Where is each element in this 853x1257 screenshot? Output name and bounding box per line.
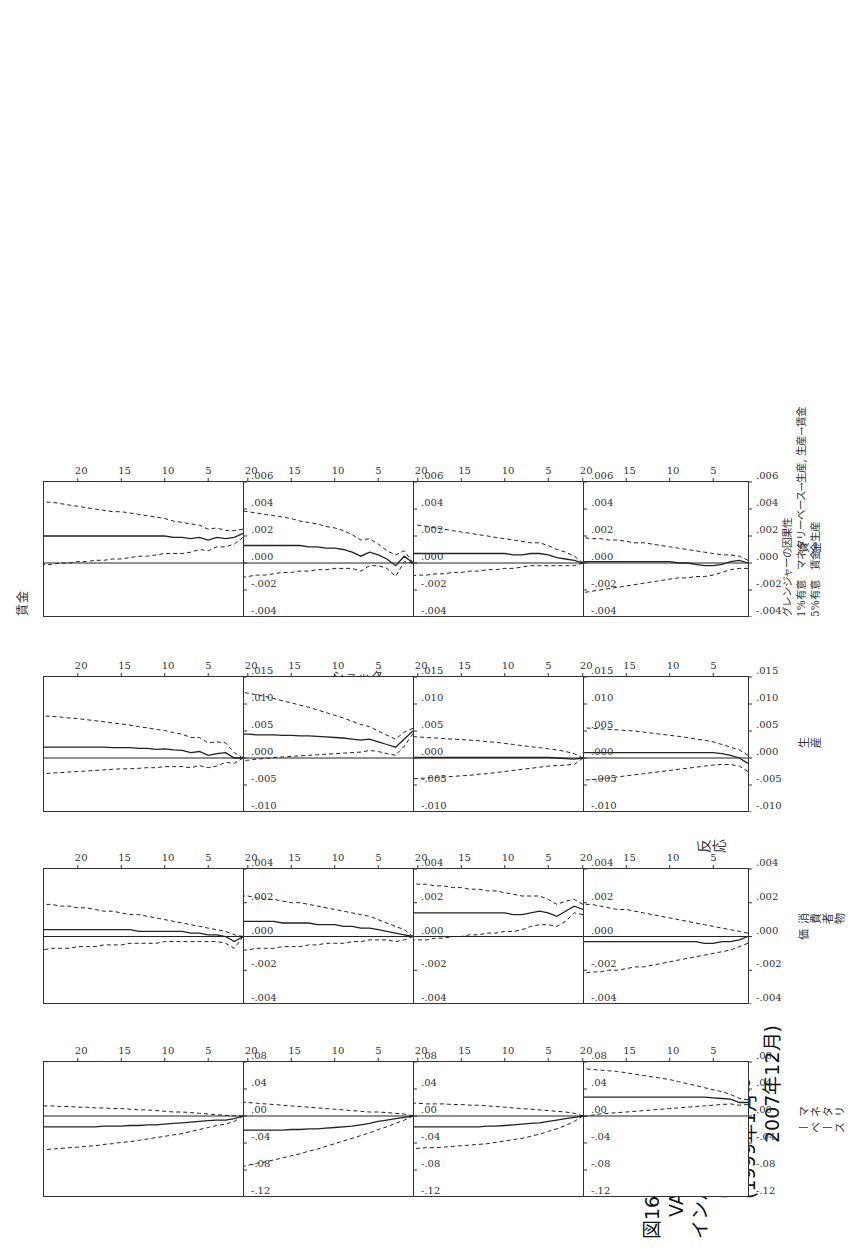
svg-text:-.002: -.002 bbox=[756, 578, 782, 589]
svg-text:5: 5 bbox=[375, 852, 381, 863]
svg-text:5: 5 bbox=[375, 660, 381, 671]
svg-text:10: 10 bbox=[667, 660, 680, 671]
svg-text:10: 10 bbox=[162, 852, 175, 863]
figure-page: 図16-4-2 VARモデルの累積 インパルス反応関数 (生産のモデル) (19… bbox=[0, 0, 853, 1257]
svg-text:.006: .006 bbox=[421, 470, 443, 481]
svg-text:.002: .002 bbox=[251, 891, 273, 902]
svg-text:-.08: -.08 bbox=[251, 1158, 270, 1169]
legend-text: マネタリーベース→生産, 生産→賃金 bbox=[795, 407, 807, 570]
svg-text:.000: .000 bbox=[421, 746, 443, 757]
svg-text:-.010: -.010 bbox=[756, 800, 782, 811]
svg-text:10: 10 bbox=[667, 852, 680, 863]
svg-text:5: 5 bbox=[375, 465, 381, 476]
svg-text:.005: .005 bbox=[756, 719, 778, 730]
svg-text:.04: .04 bbox=[591, 1077, 607, 1088]
svg-text:10: 10 bbox=[332, 660, 345, 671]
svg-text:.010: .010 bbox=[251, 692, 273, 703]
svg-text:5: 5 bbox=[375, 1045, 381, 1056]
svg-text:10: 10 bbox=[332, 465, 345, 476]
svg-text:.015: .015 bbox=[591, 665, 613, 676]
irf-panel: .08.04.00-.04-.08-.125101520 bbox=[43, 1002, 307, 1197]
svg-text:10: 10 bbox=[667, 465, 680, 476]
irf-panel: .015.010.005.000-.005-.0105101520 bbox=[43, 617, 307, 812]
svg-text:.004: .004 bbox=[421, 497, 443, 508]
svg-text:-.004: -.004 bbox=[591, 605, 617, 616]
svg-text:10: 10 bbox=[162, 1045, 175, 1056]
legend-title: グレンジャーの因果性 bbox=[780, 407, 794, 617]
svg-text:-.08: -.08 bbox=[756, 1158, 775, 1169]
svg-text:.010: .010 bbox=[756, 692, 778, 703]
svg-text:.000: .000 bbox=[591, 925, 613, 936]
svg-text:-.002: -.002 bbox=[251, 578, 277, 589]
svg-text:.004: .004 bbox=[251, 857, 273, 868]
svg-text:.010: .010 bbox=[591, 692, 613, 703]
svg-text:.000: .000 bbox=[421, 551, 443, 562]
svg-text:10: 10 bbox=[502, 1045, 515, 1056]
svg-text:5: 5 bbox=[545, 852, 551, 863]
irf-panel: .006.004.002.000-.002-.0045101520 bbox=[43, 422, 307, 617]
svg-text:.015: .015 bbox=[421, 665, 443, 676]
svg-text:5: 5 bbox=[205, 465, 211, 476]
granger-causality-legend: グレンジャーの因果性 1%有意マネタリーベース→生産, 生産→賃金 5%有意賃金… bbox=[780, 407, 822, 617]
svg-text:.002: .002 bbox=[591, 891, 613, 902]
svg-text:.04: .04 bbox=[756, 1077, 772, 1088]
svg-text:.000: .000 bbox=[756, 551, 778, 562]
legend-text: 賃金→生産 bbox=[809, 522, 821, 571]
svg-text:.004: .004 bbox=[756, 497, 778, 508]
legend-level: 1%有意 bbox=[795, 580, 807, 617]
svg-text:-.04: -.04 bbox=[591, 1131, 610, 1142]
svg-text:.000: .000 bbox=[421, 925, 443, 936]
svg-text:-.004: -.004 bbox=[756, 992, 782, 1003]
svg-text:10: 10 bbox=[332, 852, 345, 863]
svg-text:.006: .006 bbox=[251, 470, 273, 481]
svg-text:.002: .002 bbox=[421, 524, 443, 535]
legend-row-1pct: 1%有意マネタリーベース→生産, 生産→賃金 bbox=[794, 407, 808, 617]
svg-text:-.005: -.005 bbox=[421, 773, 447, 784]
irf-panel: .004.002.000-.002-.0045101520 bbox=[43, 809, 307, 1004]
svg-text:.006: .006 bbox=[591, 470, 613, 481]
svg-text:.005: .005 bbox=[251, 719, 273, 730]
svg-text:.04: .04 bbox=[251, 1077, 267, 1088]
svg-text:20: 20 bbox=[75, 660, 88, 671]
svg-text:-.04: -.04 bbox=[251, 1131, 270, 1142]
svg-text:.004: .004 bbox=[421, 857, 443, 868]
svg-text:-.12: -.12 bbox=[756, 1185, 775, 1196]
svg-text:20: 20 bbox=[75, 852, 88, 863]
svg-text:.000: .000 bbox=[251, 551, 273, 562]
svg-text:.004: .004 bbox=[591, 857, 613, 868]
svg-text:.00: .00 bbox=[251, 1104, 267, 1115]
svg-text:-.004: -.004 bbox=[251, 605, 277, 616]
svg-text:.004: .004 bbox=[251, 497, 273, 508]
svg-text:.000: .000 bbox=[591, 746, 613, 757]
svg-text:-.002: -.002 bbox=[251, 958, 277, 969]
svg-text:.00: .00 bbox=[421, 1104, 437, 1115]
svg-text:5: 5 bbox=[545, 1045, 551, 1056]
svg-text:-.002: -.002 bbox=[591, 958, 617, 969]
svg-text:10: 10 bbox=[332, 1045, 345, 1056]
svg-text:-.12: -.12 bbox=[251, 1185, 270, 1196]
legend-level: 5%有意 bbox=[809, 580, 821, 617]
svg-text:10: 10 bbox=[502, 465, 515, 476]
svg-text:5: 5 bbox=[545, 660, 551, 671]
svg-text:15: 15 bbox=[118, 852, 131, 863]
svg-text:.08: .08 bbox=[591, 1050, 607, 1061]
svg-text:.002: .002 bbox=[591, 524, 613, 535]
svg-text:-.002: -.002 bbox=[756, 958, 782, 969]
svg-text:-.004: -.004 bbox=[251, 992, 277, 1003]
svg-text:.00: .00 bbox=[756, 1104, 772, 1115]
svg-text:.005: .005 bbox=[591, 719, 613, 730]
svg-text:.002: .002 bbox=[421, 891, 443, 902]
svg-text:-.12: -.12 bbox=[421, 1185, 440, 1196]
legend-row-5pct: 5%有意賃金→生産 bbox=[808, 407, 822, 617]
svg-text:.000: .000 bbox=[591, 551, 613, 562]
svg-text:.08: .08 bbox=[421, 1050, 437, 1061]
svg-text:.002: .002 bbox=[756, 891, 778, 902]
svg-text:5: 5 bbox=[545, 465, 551, 476]
svg-text:5: 5 bbox=[205, 660, 211, 671]
svg-text:5: 5 bbox=[205, 1045, 211, 1056]
svg-text:-.12: -.12 bbox=[591, 1185, 610, 1196]
svg-text:.004: .004 bbox=[756, 857, 778, 868]
svg-text:.010: .010 bbox=[421, 692, 443, 703]
svg-text:.002: .002 bbox=[756, 524, 778, 535]
svg-text:.000: .000 bbox=[251, 925, 273, 936]
